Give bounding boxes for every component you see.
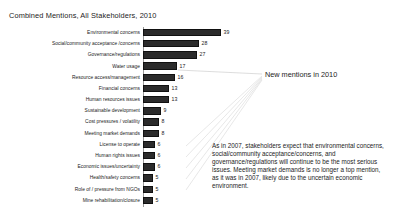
bar-value-label: 16 xyxy=(178,75,184,80)
bar-category-label: Mine rehabilitation/closure xyxy=(0,198,143,203)
bar-category-label: Governance/regulations xyxy=(0,52,143,57)
bar xyxy=(143,62,177,69)
bar-category-label: Meeting market demands xyxy=(0,131,143,136)
chart-title: Combined Mentions, All Stakeholders, 201… xyxy=(9,11,156,20)
bar-category-label: Human resources issues xyxy=(0,97,143,102)
bar-value-label: 17 xyxy=(180,64,186,69)
bar-value-label: 13 xyxy=(172,97,178,102)
bar-row: Governance/regulations27 xyxy=(0,49,394,60)
bar-category-label: License to operate xyxy=(0,142,143,147)
bar-value-label: 5 xyxy=(156,198,159,203)
bar-row: Meeting market demands8 xyxy=(0,128,394,139)
bar-category-label: Water usage xyxy=(0,64,143,69)
bar-row: Sustainable development9 xyxy=(0,105,394,116)
bar-track: 13 xyxy=(143,94,394,105)
bar-value-label: 6 xyxy=(158,164,161,169)
bar xyxy=(143,197,153,204)
bar xyxy=(143,152,155,159)
bar xyxy=(143,174,153,181)
bar-category-label: Environmental concerns xyxy=(0,30,143,35)
bar-category-label: Sustainable development xyxy=(0,108,143,113)
bar-track: 39 xyxy=(143,27,394,38)
bar xyxy=(143,141,155,148)
new-mentions-callout: New mentions in 2010 xyxy=(265,70,337,79)
bar xyxy=(143,74,175,81)
bar xyxy=(143,29,221,36)
bar-value-label: 8 xyxy=(162,119,165,124)
bar-value-label: 9 xyxy=(164,108,167,113)
bar xyxy=(143,107,161,114)
bar-row: Environmental concerns39 xyxy=(0,27,394,38)
bar-value-label: 6 xyxy=(158,142,161,147)
bar-row: Social/community acceptance /concerns28 xyxy=(0,38,394,49)
bar xyxy=(143,130,159,137)
bar-value-label: 39 xyxy=(224,30,230,35)
bar-row: Financial concerns13 xyxy=(0,83,394,94)
bar xyxy=(143,186,153,193)
bar-chart-figure: Combined Mentions, All Stakeholders, 201… xyxy=(0,0,394,213)
bar xyxy=(143,40,199,47)
bar-track: 8 xyxy=(143,128,394,139)
bar-category-label: Financial concerns xyxy=(0,86,143,91)
bar-category-label: Economic issues/uncertainty xyxy=(0,164,143,169)
bar xyxy=(143,118,159,125)
bar xyxy=(143,51,197,58)
bar xyxy=(143,85,169,92)
bar-category-label: Human rights issues xyxy=(0,153,143,158)
bar-value-label: 8 xyxy=(162,131,165,136)
bar-category-label: Cost pressures / volatility xyxy=(0,119,143,124)
bar-track: 8 xyxy=(143,117,394,128)
bar-value-label: 6 xyxy=(158,153,161,158)
bar-row: Mine rehabilitation/closure5 xyxy=(0,195,394,206)
bar xyxy=(143,96,169,103)
bar-value-label: 5 xyxy=(156,187,159,192)
bar-track: 27 xyxy=(143,49,394,60)
bar-value-label: 28 xyxy=(202,41,208,46)
bar-track: 9 xyxy=(143,105,394,116)
bar xyxy=(143,163,155,170)
bar-value-label: 5 xyxy=(156,175,159,180)
bar-category-label: Resource access/management xyxy=(0,75,143,80)
bar-row: Cost pressures / volatility8 xyxy=(0,117,394,128)
bar-track: 13 xyxy=(143,83,394,94)
bar-category-label: Health/safety concerns xyxy=(0,175,143,180)
bar-value-label: 13 xyxy=(172,86,178,91)
bar-value-label: 27 xyxy=(200,52,206,57)
bar-category-label: Role of / pressure from NGOs xyxy=(0,187,143,192)
bar-track: 28 xyxy=(143,38,394,49)
bar-row: Human resources issues13 xyxy=(0,94,394,105)
analysis-note: As in 2007, stakeholders expect that env… xyxy=(212,142,388,191)
bar-track: 5 xyxy=(143,195,394,206)
bar-category-label: Social/community acceptance /concerns xyxy=(0,41,143,46)
